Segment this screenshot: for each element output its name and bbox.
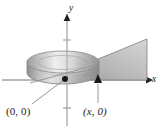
y-axis-label: y [69, 4, 73, 14]
origin-point-marker [62, 76, 68, 82]
x-axis-label-text: x [152, 74, 156, 84]
x-point-label-text: (x, 0) [83, 105, 107, 117]
disk-hole [38, 56, 88, 70]
x-axis-label: x [152, 75, 156, 85]
origin-label-text: (0, 0) [6, 105, 30, 117]
x-point-coordinate-label: (x, 0) [83, 106, 107, 117]
origin-coordinate-label: (0, 0) [6, 106, 30, 117]
math-figure-diagram: (0, 0) (x, 0) y x [0, 0, 165, 132]
y-axis-lower [63, 80, 71, 126]
y-axis-arrowhead [64, 14, 71, 21]
y-axis-label-text: y [69, 3, 73, 13]
